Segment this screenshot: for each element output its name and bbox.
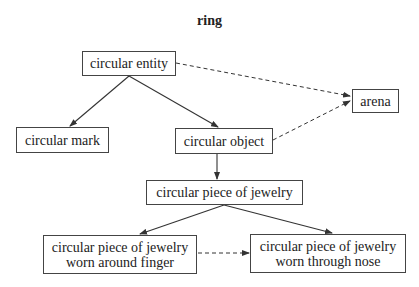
node-jewelry-worn-around-finger: circular piece of jewelry worn around fi… xyxy=(43,235,197,274)
edge-entity-to-object xyxy=(129,76,218,127)
node-label: circular piece of jewelry xyxy=(156,185,292,200)
node-circular-object: circular object xyxy=(175,128,273,154)
node-label: arena xyxy=(360,94,390,109)
edge-entity-to-mark xyxy=(70,76,129,126)
node-arena: arena xyxy=(352,89,399,113)
node-jewelry-worn-through-nose: circular piece of jewelry worn through n… xyxy=(250,234,406,273)
node-label: circular entity xyxy=(90,56,168,71)
node-circular-entity: circular entity xyxy=(82,51,176,76)
node-circular-mark: circular mark xyxy=(16,127,109,153)
node-label-line2: worn through nose xyxy=(276,254,381,269)
edge-object-to-arena xyxy=(273,101,350,140)
edge-entity-to-arena xyxy=(176,63,350,96)
node-label-line2: worn around finger xyxy=(66,255,174,270)
node-label-line1: circular piece of jewelry xyxy=(260,239,396,254)
node-label: circular mark xyxy=(25,133,100,148)
node-circular-piece-of-jewelry: circular piece of jewelry xyxy=(146,180,303,205)
edge-jewelry-to-finger xyxy=(140,205,224,234)
node-label-line1: circular piece of jewelry xyxy=(52,240,188,255)
edge-jewelry-to-nose xyxy=(224,205,332,233)
node-label: circular object xyxy=(184,134,264,149)
